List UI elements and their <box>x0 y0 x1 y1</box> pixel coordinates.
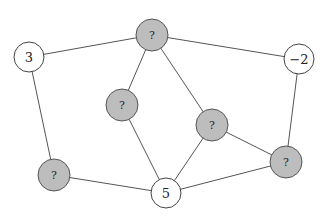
edge-a-f <box>29 57 54 175</box>
nodes: 3?−2???5? <box>14 19 314 208</box>
node-d: ? <box>106 89 138 121</box>
node-b: ? <box>136 19 168 51</box>
node-label: ? <box>149 29 155 42</box>
node-label: ? <box>209 119 215 132</box>
node-g: 5 <box>151 178 181 208</box>
node-label: ? <box>51 169 57 182</box>
node-label: ? <box>283 156 289 169</box>
node-h: ? <box>270 146 302 178</box>
node-a: 3 <box>14 42 44 72</box>
edge-f-g <box>54 175 166 193</box>
node-label: ? <box>119 99 125 112</box>
edge-b-c <box>152 35 299 59</box>
edge-a-b <box>29 35 152 57</box>
node-label: −2 <box>289 52 308 67</box>
edges <box>29 35 299 193</box>
node-f: ? <box>38 159 70 191</box>
node-c: −2 <box>284 44 314 74</box>
node-e: ? <box>196 109 228 141</box>
node-label: 5 <box>162 186 170 201</box>
node-label: 3 <box>25 50 33 65</box>
graph-diagram: 3?−2???5? <box>0 0 329 220</box>
